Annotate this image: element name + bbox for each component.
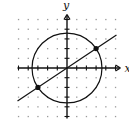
grid-dot [47,29,48,30]
grid-dot [28,38,29,39]
grid-dot [57,87,58,88]
grid-dot [96,116,97,117]
grid-dot [18,106,19,107]
grid-dot [57,38,58,39]
grid-dot [86,19,87,20]
grid-dot [105,48,106,49]
grid-dot [37,97,38,98]
grid-dot [105,106,106,107]
grid-dot [18,48,19,49]
grid-dot [37,77,38,78]
grid-dot [28,116,29,117]
grid-dot [76,97,77,98]
grid-dot [105,116,106,117]
grid-dot [96,19,97,20]
grid-dot [57,48,58,49]
grid-dot [105,77,106,78]
grid-dot [76,87,77,88]
grid-dot [37,19,38,20]
grid-dot [47,87,48,88]
grid-dot [18,87,19,88]
grid-dot [18,97,19,98]
grid-dot [28,29,29,30]
grid-dot [115,48,116,49]
grid-dot [115,38,116,39]
grid-dot [28,77,29,78]
grid-dot [105,38,106,39]
grid-dot [57,77,58,78]
grid-dot [86,48,87,49]
grid-dot [86,87,87,88]
x-axis-label: x [125,62,130,75]
grid-dot [76,38,77,39]
grid-dot [28,97,29,98]
grid-dot [57,29,58,30]
grid-dot [86,29,87,30]
grid-dot [18,29,19,30]
grid-dot [96,106,97,107]
grid-dot [37,116,38,117]
grid-dot [37,58,38,59]
grid-dot [115,116,116,117]
grid-dot [47,116,48,117]
grid-dot [115,106,116,107]
grid-dot [76,48,77,49]
grid-dot [18,116,19,117]
grid-dot [76,77,77,78]
grid-dot [37,38,38,39]
grid-dot [86,77,87,78]
coordinate-graph: xy [0,0,129,126]
grid-dot [105,97,106,98]
grid-dot [47,19,48,20]
grid-dot [76,29,77,30]
grid-dot [18,77,19,78]
grid-dot [18,19,19,20]
grid-dot [86,116,87,117]
grid-dot [105,58,106,59]
intersection-point [94,46,99,51]
grid-dot [37,29,38,30]
grid-dot [76,106,77,107]
grid-dot [76,19,77,20]
grid-dot [37,106,38,107]
grid-dot [115,87,116,88]
grid-dot [57,97,58,98]
grid-dot [115,29,116,30]
y-axis-label: y [62,0,70,12]
grid-dot [76,58,77,59]
grid-dot [96,29,97,30]
grid-dot [76,116,77,117]
grid-dot [105,19,106,20]
grid-dot [57,19,58,20]
grid-dot [57,116,58,117]
grid-dot [18,58,19,59]
grid-dot [28,19,29,20]
grid-dot [47,77,48,78]
grid-dot [96,77,97,78]
grid-dot [86,106,87,107]
grid-dot [96,38,97,39]
grid-dot [86,58,87,59]
grid-dot [96,58,97,59]
grid-dot [96,97,97,98]
grid-dot [47,58,48,59]
grid-dot [105,87,106,88]
grid-dot [28,58,29,59]
grid-dot [115,19,116,20]
grid-dot [28,106,29,107]
grid-dot [115,77,116,78]
grid-dot [57,58,58,59]
grid-dot [115,97,116,98]
grid-dot [28,87,29,88]
grid-dot [47,48,48,49]
grid-dot [105,29,106,30]
grid-dot [18,38,19,39]
grid-dot [47,106,48,107]
intersection-point [35,85,40,90]
grid-dot [57,106,58,107]
grid-dot [115,58,116,59]
grid-dot [28,48,29,49]
